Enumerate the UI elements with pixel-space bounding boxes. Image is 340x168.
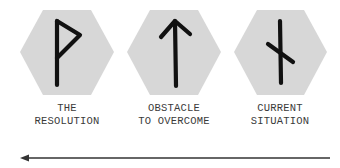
card-label-line-1: THE: [57, 102, 77, 114]
arrow-left-icon: [20, 155, 29, 162]
diagram-svg: THE RESOLUTION OBSTACLE TO OVERCOME CURR…: [0, 0, 340, 168]
hexagon-tile: [20, 10, 114, 95]
card-label-line-2: SITUATION: [251, 115, 310, 127]
card-obstacle: OBSTACLE TO OVERCOME: [127, 10, 221, 127]
card-label-line-2: RESOLUTION: [34, 115, 99, 127]
card-label-line-1: OBSTACLE: [148, 102, 200, 114]
card-resolution: THE RESOLUTION: [20, 10, 114, 127]
card-current-situation: CURRENT SITUATION: [234, 10, 327, 127]
card-label-line-2: TO OVERCOME: [138, 115, 210, 127]
card-label-line-1: CURRENT: [257, 102, 303, 114]
reading-direction-arrow: [20, 155, 330, 162]
rune-reading-diagram: THE RESOLUTION OBSTACLE TO OVERCOME CURR…: [0, 0, 340, 168]
